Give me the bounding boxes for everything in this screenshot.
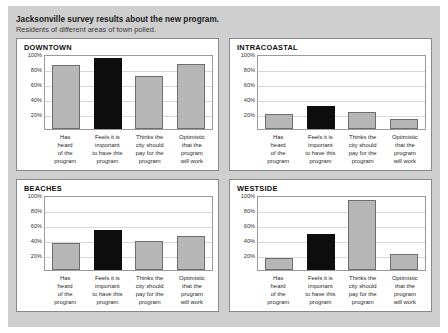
- x-axis-tick-label-line: program: [258, 298, 298, 306]
- bar[interactable]: [390, 119, 418, 129]
- bar[interactable]: [52, 243, 80, 270]
- x-axis-tick-label-line: heard: [258, 282, 298, 290]
- y-axis-tick-label: 80%: [244, 67, 255, 73]
- y-axis-tick-label: 80%: [31, 208, 42, 214]
- bar-slot: [129, 56, 171, 129]
- x-axis-tick-label-line: Feels it is: [87, 133, 127, 141]
- plot-area: 100%80%60%40%20%Hasheardof theprogramFee…: [24, 55, 213, 167]
- bar[interactable]: [52, 65, 80, 130]
- bar-slot: [45, 56, 87, 129]
- x-axis-tick-label-line: Has: [258, 133, 298, 141]
- chart-panel-downtown: DOWNTOWN100%80%60%40%20%Hasheardof thepr…: [16, 38, 219, 171]
- x-axis-tick-label-line: pay for the: [343, 290, 383, 298]
- x-axis-tick-label-line: to have this: [300, 290, 340, 298]
- x-axis-tick-label-line: important: [87, 282, 127, 290]
- plot-box: [257, 55, 426, 130]
- chart-panel-grid: DOWNTOWN100%80%60%40%20%Hasheardof thepr…: [16, 38, 432, 319]
- bar-series: [258, 56, 425, 129]
- y-axis-tick-label: 20%: [31, 253, 42, 259]
- x-axis-tick-label: Thinks thecity shouldpay for theprogram: [342, 273, 384, 308]
- bar[interactable]: [348, 112, 376, 129]
- chart-panel-westside: WESTSIDE100%80%60%40%20%Hasheardof thepr…: [229, 179, 432, 312]
- x-axis-labels: Hasheardof theprogramFeels it isimportan…: [257, 132, 426, 167]
- x-axis-tick-label-line: city should: [343, 282, 383, 290]
- bar[interactable]: [265, 258, 293, 270]
- y-axis-tick-label: 20%: [244, 253, 255, 259]
- x-axis-tick-label-line: will work: [172, 298, 212, 306]
- plot-area: 100%80%60%40%20%Hasheardof theprogramFee…: [24, 196, 213, 308]
- chart-panel-title: DOWNTOWN: [24, 43, 72, 52]
- y-axis-tick-label: 60%: [244, 223, 255, 229]
- x-axis-tick-label-line: of the: [45, 290, 85, 298]
- x-axis-tick-label-line: Has: [258, 274, 298, 282]
- x-axis-tick-label: Hasheardof theprogram: [44, 273, 86, 308]
- chart-panel-intracoastal: INTRACOASTAL100%80%60%40%20%Hasheardof t…: [229, 38, 432, 171]
- bar-series: [45, 197, 212, 270]
- bar-series: [258, 197, 425, 270]
- bar[interactable]: [94, 58, 122, 129]
- x-axis-tick-label: Thinks thecity shouldpay for theprogram: [129, 273, 171, 308]
- x-axis-tick-label-line: program: [343, 157, 383, 165]
- x-axis-tick-label: Thinks thecity shouldpay for theprogram: [342, 132, 384, 167]
- x-axis-tick-label: Feels it isimportantto have thisprogram: [299, 132, 341, 167]
- bar-slot: [300, 56, 342, 129]
- x-axis-tick-label-line: program: [130, 298, 170, 306]
- plot-box: [44, 196, 213, 271]
- chart-panel-title: BEACHES: [24, 184, 62, 193]
- x-axis-tick-label-line: city should: [343, 141, 383, 149]
- bar[interactable]: [307, 106, 335, 129]
- x-axis-tick-label-line: program: [300, 298, 340, 306]
- bar[interactable]: [348, 200, 376, 270]
- bar[interactable]: [177, 236, 205, 270]
- x-axis-tick-label-line: to have this: [87, 290, 127, 298]
- y-axis-tick-label: 100%: [28, 52, 42, 58]
- plot-area: 100%80%60%40%20%Hasheardof theprogramFee…: [237, 55, 426, 167]
- x-axis-tick-label-line: heard: [258, 141, 298, 149]
- x-axis-tick-label: Optimisticthat theprogramwill work: [384, 273, 426, 308]
- bar[interactable]: [265, 114, 293, 129]
- y-axis: 100%80%60%40%20%: [237, 55, 256, 130]
- bar[interactable]: [135, 76, 163, 129]
- x-axis-tick-label-line: Feels it is: [87, 274, 127, 282]
- x-axis-tick-label-line: Optimistic: [172, 274, 212, 282]
- bar[interactable]: [390, 254, 418, 271]
- x-axis-tick-label-line: program: [300, 157, 340, 165]
- x-axis-tick-label-line: important: [300, 282, 340, 290]
- chart-panel-title: INTRACOASTAL: [237, 43, 298, 52]
- y-axis-tick-label: 100%: [241, 193, 255, 199]
- x-axis-tick-label-line: program: [87, 157, 127, 165]
- figure-title: Jacksonville survey results about the ne…: [16, 14, 432, 25]
- x-axis-tick-label-line: will work: [172, 157, 212, 165]
- x-axis-tick-label-line: Thinks the: [130, 133, 170, 141]
- y-axis-tick-label: 40%: [244, 97, 255, 103]
- x-axis-tick-label: Optimisticthat theprogramwill work: [171, 132, 213, 167]
- bar[interactable]: [94, 230, 122, 271]
- x-axis-tick-label: Feels it isimportantto have thisprogram: [86, 132, 128, 167]
- bar[interactable]: [177, 64, 205, 129]
- bar-slot: [87, 197, 129, 270]
- chart-panel-title: WESTSIDE: [237, 184, 278, 193]
- bar-slot: [258, 197, 300, 270]
- bar-slot: [170, 56, 212, 129]
- x-axis-tick-label-line: that the: [385, 141, 425, 149]
- x-axis-tick-label-line: program: [385, 149, 425, 157]
- chart-panel-beaches: BEACHES100%80%60%40%20%Hasheardof thepro…: [16, 179, 219, 312]
- bar-slot: [342, 56, 384, 129]
- x-axis-tick-label-line: Thinks the: [130, 274, 170, 282]
- x-axis-tick-label: Feels it isimportantto have thisprogram: [86, 273, 128, 308]
- x-axis-tick-label: Thinks thecity shouldpay for theprogram: [129, 132, 171, 167]
- bar-slot: [45, 197, 87, 270]
- bar[interactable]: [307, 234, 335, 270]
- figure-backdrop: Jacksonville survey results about the ne…: [8, 6, 440, 327]
- x-axis-tick-label: Hasheardof theprogram: [257, 273, 299, 308]
- y-axis-tick-label: 20%: [31, 112, 42, 118]
- x-axis-tick-label-line: Feels it is: [300, 274, 340, 282]
- x-axis-tick-label-line: program: [87, 298, 127, 306]
- x-axis-tick-label: Optimisticthat theprogramwill work: [171, 273, 213, 308]
- bar-slot: [258, 56, 300, 129]
- x-axis-tick-label-line: city should: [130, 141, 170, 149]
- bar[interactable]: [135, 241, 163, 270]
- x-axis-tick-label-line: will work: [385, 157, 425, 165]
- y-axis-tick-label: 60%: [244, 82, 255, 88]
- x-axis-tick-label-line: heard: [45, 282, 85, 290]
